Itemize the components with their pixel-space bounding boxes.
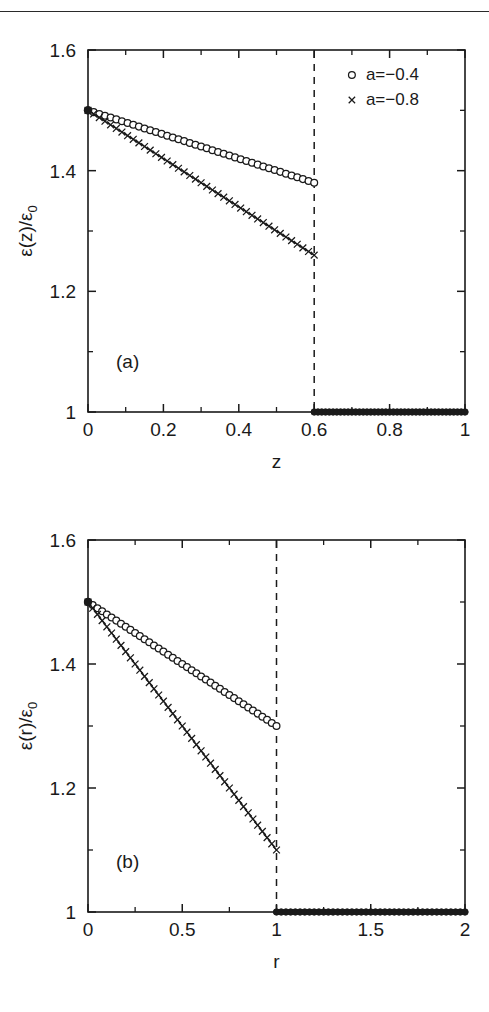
marker-circle (311, 179, 318, 186)
marker-cross (259, 828, 266, 835)
marker-cross (118, 642, 125, 649)
marker-cross (132, 661, 139, 668)
x-tick-label: 0 (83, 419, 94, 440)
marker-cross (113, 636, 120, 643)
marker-cross (209, 187, 216, 194)
marker-cross (250, 816, 257, 823)
y-tick-label: 1.6 (50, 530, 76, 551)
x-axis-label: z (272, 451, 282, 472)
marker-cross (181, 168, 188, 175)
figure-container: 00.20.40.60.8111.21.41.6zε(z)/ε0(a)a=−0.… (0, 0, 489, 1012)
marker-cross (122, 648, 129, 655)
marker-cross (266, 223, 273, 230)
marker-filled (462, 909, 468, 915)
marker-cross (192, 176, 199, 183)
marker-cross (215, 190, 222, 197)
marker-cross (198, 747, 205, 754)
x-tick-label: 0.6 (301, 419, 327, 440)
legend-marker-circle (349, 72, 356, 79)
legend-label: a=−0.4 (366, 65, 419, 84)
marker-cross (169, 710, 176, 717)
marker-cross (235, 797, 242, 804)
chart-panel-a: 00.20.40.60.8111.21.41.6zε(z)/ε0(a)a=−0.… (0, 20, 489, 490)
marker-cross (130, 136, 137, 143)
legend-marker-cross (349, 97, 355, 103)
plot-area-b: 00.511.5211.21.41.6rε(r)/ε0(b) (0, 500, 489, 1000)
marker-cross (127, 654, 134, 661)
y-axis-label-sub: 0 (25, 205, 40, 212)
marker-cross (198, 179, 205, 186)
marker-circle (273, 723, 280, 730)
marker-cross (160, 698, 167, 705)
y-axis-label: ε(r)/ε0 (15, 702, 40, 750)
legend-label: a=−0.8 (366, 90, 419, 109)
x-tick-label: 0.5 (169, 919, 195, 940)
y-tick-label: 1.2 (50, 281, 76, 302)
marker-cross (151, 685, 158, 692)
marker-cross (155, 692, 162, 699)
y-tick-label: 1.2 (50, 778, 76, 799)
marker-cross (147, 147, 154, 154)
marker-cross (271, 226, 278, 233)
marker-cross (217, 772, 224, 779)
chart-panel-b: 00.511.5211.21.41.6rε(r)/ε0(b) (0, 500, 489, 1000)
marker-cross (169, 161, 176, 168)
marker-cross (141, 143, 148, 150)
marker-cross (212, 766, 219, 773)
marker-cross (273, 847, 280, 854)
y-tick-label: 1 (65, 902, 76, 923)
panel-label: (b) (116, 851, 139, 872)
panel-label: (a) (116, 351, 139, 372)
origin-marker (84, 106, 92, 114)
chart-root: 00.20.40.60.8111.21.41.6zε(z)/ε0(a)a=−0.… (15, 40, 470, 472)
x-tick-label: 1.5 (358, 919, 384, 940)
marker-cross (152, 150, 159, 157)
marker-cross (299, 244, 306, 251)
marker-cross (207, 760, 214, 767)
marker-cross (136, 667, 143, 674)
y-axis-label-arg: (r)/ (15, 717, 36, 742)
marker-cross (107, 121, 114, 128)
marker-cross (202, 754, 209, 761)
series-a=-0.8 (85, 599, 280, 854)
series-outside-region (273, 909, 468, 915)
marker-cross (243, 208, 250, 215)
marker-cross (99, 617, 106, 624)
marker-cross (226, 785, 233, 792)
x-tick-label: 2 (460, 919, 471, 940)
marker-cross (226, 197, 233, 204)
marker-cross (108, 630, 115, 637)
series-a=-0.8 (85, 107, 318, 259)
marker-cross (240, 803, 247, 810)
y-tick-label: 1.6 (50, 40, 76, 61)
marker-cross (113, 125, 120, 132)
marker-cross (124, 132, 131, 139)
marker-cross (254, 216, 261, 223)
marker-cross (203, 183, 210, 190)
origin-marker (84, 598, 92, 606)
marker-cross (283, 234, 290, 241)
y-tick-label: 1.4 (50, 654, 77, 675)
plot-area-a: 00.20.40.60.8111.21.41.6zε(z)/ε0(a)a=−0.… (0, 20, 489, 490)
y-axis-label-arg: (z)/ (15, 220, 36, 248)
marker-cross (254, 822, 261, 829)
marker-cross (184, 729, 191, 736)
marker-cross (103, 623, 110, 630)
series-a=-0.4 (85, 599, 280, 730)
x-tick-label: 0.2 (150, 419, 176, 440)
chart-root: 00.511.5211.21.41.6rε(r)/ε0(b) (15, 530, 470, 972)
legend: a=−0.4a=−0.8 (349, 65, 419, 109)
marker-cross (174, 716, 181, 723)
x-tick-label: 0 (83, 919, 94, 940)
marker-cross (264, 834, 271, 841)
marker-cross (136, 140, 143, 147)
y-tick-label: 1.4 (50, 161, 77, 182)
x-tick-label: 0.4 (226, 419, 253, 440)
marker-cross (186, 172, 193, 179)
y-tick-label: 1 (65, 402, 76, 423)
marker-cross (237, 205, 244, 212)
marker-cross (245, 809, 252, 816)
marker-cross (231, 791, 238, 798)
marker-cross (232, 201, 239, 208)
marker-cross (221, 778, 228, 785)
